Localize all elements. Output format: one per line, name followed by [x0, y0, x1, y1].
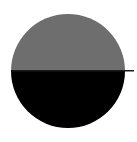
figure-canvas	[0, 0, 137, 142]
bicolor-disc-figure	[0, 0, 137, 142]
